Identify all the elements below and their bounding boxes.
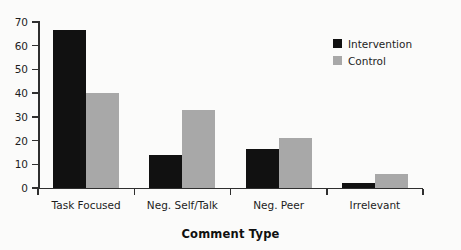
bar-control-task-focused [86,93,119,188]
y-axis-tick-label: 0 [4,182,28,194]
legend-swatch-icon-control [333,56,342,65]
y-axis-tick [32,21,38,23]
x-axis-tick [422,189,424,195]
legend-label-control: Control [348,55,386,67]
bar-intervention-task-focused [53,30,86,188]
bar-control-neg-peer [279,138,312,188]
legend-item-control[interactable]: Control [333,53,412,68]
y-axis-tick [32,45,38,47]
x-axis-category-label: Neg. Peer [253,199,304,211]
y-axis-tick-label: 40 [4,87,28,99]
legend-swatch-icon-intervention [333,39,342,48]
y-axis-tick [32,92,38,94]
bar-intervention-neg-peer [246,149,279,188]
y-axis-tick-label: 20 [4,135,28,147]
y-axis-tick-label: 60 [4,40,28,52]
bar-chart: 010203040506070 Task FocusedNeg. Self/Ta… [0,0,461,250]
y-axis-tick [32,140,38,142]
y-axis-tick [32,116,38,118]
bar-intervention-irrelevant [342,183,375,188]
x-axis-category-label: Irrelevant [350,199,401,211]
y-axis-tick [32,69,38,71]
bar-intervention-neg-self-talk [149,155,182,188]
x-axis-tick [37,189,39,195]
bar-control-irrelevant [375,174,408,188]
x-axis-tick [326,189,328,195]
y-axis-line [38,21,40,189]
y-axis-tick-label: 70 [4,16,28,28]
legend-label-intervention: Intervention [348,38,412,50]
x-axis-category-label: Task Focused [52,199,121,211]
x-axis-title: Comment Type [0,227,461,241]
legend: Intervention Control [333,36,412,70]
y-axis-tick-label: 10 [4,158,28,170]
x-axis-tick [230,189,232,195]
y-axis-tick [32,164,38,166]
x-axis-tick [134,189,136,195]
y-axis-tick-label: 50 [4,63,28,75]
legend-item-intervention[interactable]: Intervention [333,36,412,51]
bar-control-neg-self-talk [182,110,215,188]
x-axis-category-label: Neg. Self/Talk [147,199,218,211]
y-axis-tick-label: 30 [4,111,28,123]
